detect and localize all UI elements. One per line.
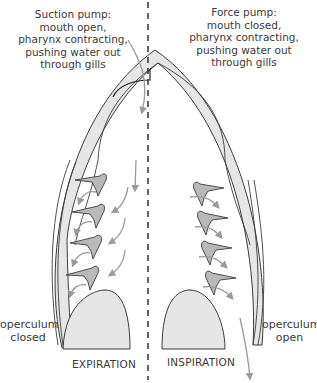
label-line: operculum [262, 318, 317, 331]
label-line: operculum [0, 318, 56, 331]
inspiration-label: INSPIRATION [167, 356, 235, 368]
caption-line: mouth open, [8, 21, 138, 34]
suction-pump-caption: Suction pump: mouth open, pharynx contra… [8, 8, 138, 71]
caption-line: mouth closed, [180, 19, 308, 32]
operculum-open-label: operculum open [262, 318, 317, 344]
operculum-closed-label: operculum closed [0, 318, 56, 344]
caption-line: pharynx contracting, [180, 31, 308, 44]
caption-line: through gills [8, 58, 138, 71]
caption-line: pharynx contracting, [8, 33, 138, 46]
caption-line: Suction pump: [8, 8, 138, 21]
lobes [63, 290, 225, 349]
caption-line: pushing water out [8, 46, 138, 59]
expiration-label: EXPIRATION [72, 358, 136, 370]
caption-line: through gills [180, 56, 308, 69]
caption-line: pushing water out [180, 44, 308, 57]
gill-arches-right [193, 182, 236, 295]
label-line: closed [0, 331, 56, 344]
caption-line: Force pump: [180, 6, 308, 19]
label-line: open [262, 331, 317, 344]
force-pump-caption: Force pump: mouth closed, pharynx contra… [180, 6, 308, 69]
